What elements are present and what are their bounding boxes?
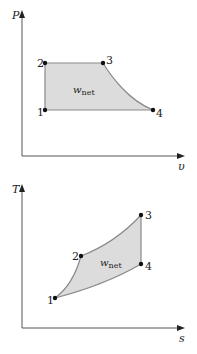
ts-point-4-label: 4 [145,260,152,273]
pv-point-3 [101,61,105,65]
pv-x-axis-arrow-icon [177,153,185,159]
pv-x-axis-label: υ [178,160,185,173]
ts-diagram: T s wnet 1 2 3 4 [12,183,185,345]
pv-point-4 [151,108,155,112]
ts-point-2 [79,254,83,258]
ts-x-axis-label: s [179,332,185,345]
ts-y-axis-label: T [12,183,21,196]
ts-x-axis-arrow-icon [177,325,185,331]
pv-point-3-label: 3 [106,54,113,67]
pv-point-4-label: 4 [156,107,163,120]
pv-y-axis-label: P [11,9,20,22]
pv-point-1-label: 1 [37,106,44,119]
ts-point-4 [139,262,143,266]
ts-point-1-label: 1 [47,294,54,307]
ts-point-2-label: 2 [72,250,79,263]
ts-point-3-label: 3 [145,209,152,222]
pv-diagram: P υ wnet 1 2 3 4 [11,9,185,173]
pv-cycle-area [45,63,153,110]
pv-y-axis-arrow-icon [19,10,25,18]
thermo-cycle-diagrams: P υ wnet 1 2 3 4 T s wnet 1 2 3 4 [0,0,197,354]
ts-cycle-area [55,215,141,298]
pv-point-2-label: 2 [37,57,44,70]
ts-y-axis-arrow-icon [19,184,25,192]
ts-point-3 [139,213,143,217]
